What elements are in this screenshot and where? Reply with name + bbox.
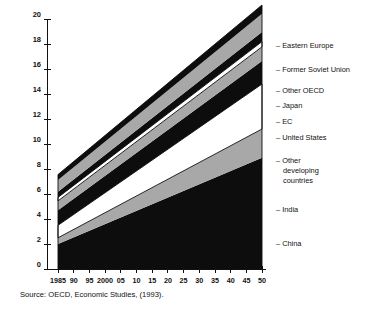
- x-tick-label-2035: 35: [211, 276, 219, 285]
- legend-label-other-developing-3: countries: [283, 176, 313, 185]
- x-tick-label-2015: 15: [148, 276, 156, 285]
- stacked-area-chart: 20 18 16 14 12 10 8 6 4 2 0: [0, 0, 371, 310]
- x-tick-label-2010: 10: [133, 276, 141, 285]
- legend-label-united-states: – United States: [276, 133, 327, 142]
- y-tick-label-12: 12: [33, 110, 41, 119]
- legend-label-india: – India: [276, 205, 299, 214]
- y-tick-label-14: 14: [33, 85, 42, 94]
- y-tick-label-4: 4: [37, 210, 42, 219]
- x-tick-label-1985: 1985: [50, 276, 66, 285]
- legend-label-china: – China: [276, 239, 302, 248]
- y-tick-label-20: 20: [33, 10, 41, 19]
- y-tick-label-10: 10: [33, 135, 41, 144]
- y-tick-label-6: 6: [37, 185, 41, 194]
- y-tick-label-2: 2: [37, 235, 41, 244]
- x-tick-label-2030: 30: [195, 276, 203, 285]
- legend: – Eastern Europe – Former Soviet Union –…: [276, 41, 350, 248]
- x-tick-label-1995: 95: [85, 276, 93, 285]
- x-tick-label-2040: 40: [227, 276, 235, 285]
- y-tick-label-18: 18: [33, 35, 41, 44]
- y-tick-label-16: 16: [33, 60, 41, 69]
- x-tick-label-2045: 45: [242, 276, 250, 285]
- y-tick-label-8: 8: [37, 160, 41, 169]
- legend-label-other-developing-2: developing: [283, 166, 319, 175]
- source-note: Source: OECD, Economic Studies, (1993).: [20, 290, 164, 299]
- x-tick-label-2025: 25: [180, 276, 188, 285]
- figure-container: 20 18 16 14 12 10 8 6 4 2 0: [0, 0, 371, 310]
- x-tick-label-2020: 20: [164, 276, 172, 285]
- legend-label-other-developing-1: – Other: [276, 156, 301, 165]
- x-tick-label-2005: 05: [117, 276, 125, 285]
- legend-label-ec: – EC: [276, 117, 293, 126]
- legend-label-japan: – Japan: [276, 101, 302, 110]
- y-tick-label-0: 0: [37, 260, 41, 269]
- legend-label-former-soviet-union: – Former Soviet Union: [276, 65, 350, 74]
- area-bands: [58, 5, 262, 269]
- y-axis: 20 18 16 14 12 10 8 6 4 2 0: [33, 10, 51, 269]
- legend-label-eastern-europe: – Eastern Europe: [276, 41, 334, 50]
- legend-label-other-oecd: – Other OECD: [276, 86, 324, 95]
- x-tick-label-2050: 50: [258, 276, 266, 285]
- x-tick-label-1990: 90: [70, 276, 78, 285]
- x-tick-label-2000: 2000: [97, 276, 113, 285]
